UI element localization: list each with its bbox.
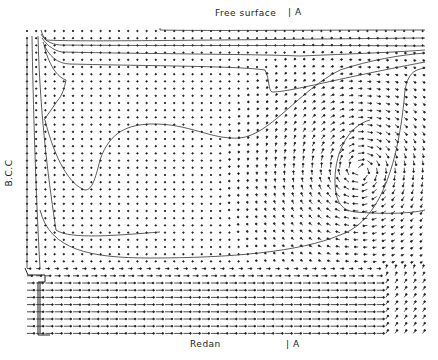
velocity-vectors: [26, 30, 425, 334]
streamlines: [27, 28, 425, 268]
flow-field-plot: [0, 0, 438, 360]
redan-step: [25, 268, 50, 335]
